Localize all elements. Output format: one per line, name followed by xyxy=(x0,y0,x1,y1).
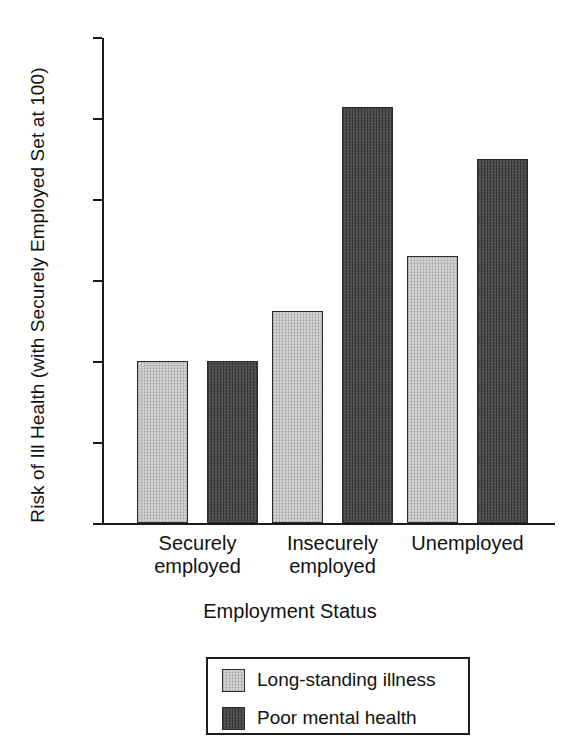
plot-area: 300250200150100500 xyxy=(102,38,555,524)
y-tick-200 xyxy=(93,199,102,201)
y-tick-250 xyxy=(93,118,102,120)
legend-swatch-light-gray xyxy=(222,669,245,692)
legend-label: Poor mental health xyxy=(257,707,417,729)
y-tick-100 xyxy=(93,361,102,363)
y-axis-title: Risk of Ill Health (with Securely Employ… xyxy=(27,35,49,555)
bar-unemployed-long-standing-illness xyxy=(407,256,458,523)
x-axis-title: Employment Status xyxy=(0,600,580,623)
bar-securely-employed-long-standing-illness xyxy=(137,361,188,523)
y-tick-150 xyxy=(93,280,102,282)
legend-label: Long-standing illness xyxy=(257,669,436,691)
legend-swatch-dark-gray xyxy=(222,707,245,730)
bar-chart-figure: Risk of Ill Health (with Securely Employ… xyxy=(0,0,580,748)
bar-insecurely-employed-long-standing-illness xyxy=(272,311,323,523)
category-label-line: employed xyxy=(248,555,418,578)
category-label-line: Unemployed xyxy=(383,532,553,555)
y-tick-300 xyxy=(93,37,102,39)
legend-item-long-standing-illness: Long-standing illness xyxy=(222,663,468,697)
y-axis-line xyxy=(102,38,104,524)
y-tick-0 xyxy=(93,523,102,525)
legend-box: Long-standing illness Poor mental health xyxy=(206,657,470,735)
bar-securely-employed-poor-mental-health xyxy=(207,361,258,523)
x-axis-line xyxy=(102,523,555,525)
bar-unemployed-poor-mental-health xyxy=(477,159,528,524)
y-tick-50 xyxy=(93,442,102,444)
legend-item-poor-mental-health: Poor mental health xyxy=(222,701,468,735)
bar-insecurely-employed-poor-mental-health xyxy=(342,107,393,523)
category-label-unemployed: Unemployed xyxy=(383,532,553,555)
